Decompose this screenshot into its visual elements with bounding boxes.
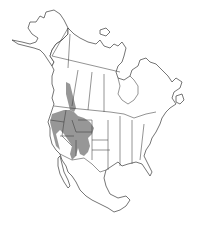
arctic-island: [100, 28, 110, 36]
newfoundland-outline: [176, 94, 184, 104]
range-map: [0, 0, 198, 226]
